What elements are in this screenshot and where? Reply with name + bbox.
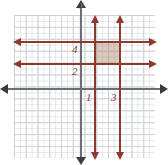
- line-y-equals-4-left-arrow-icon: [13, 38, 21, 46]
- line-y-equals-2: [20, 63, 150, 65]
- line-x-equals-1-up-arrow-icon: [91, 15, 99, 23]
- shaded-rectangle-region: [95, 42, 120, 64]
- label-line-x-equals-3: 3: [111, 92, 117, 103]
- label-line-y-equals-2: 2: [72, 66, 78, 77]
- coordinate-plane-figure: 4 2 1 3 y: [0, 0, 168, 165]
- line-y-equals-2-left-arrow-icon: [13, 60, 21, 68]
- y-axis-label: y: [80, 0, 84, 9]
- line-y-equals-2-right-arrow-icon: [149, 60, 157, 68]
- line-x-equals-3-down-arrow-icon: [116, 152, 124, 160]
- x-axis-right-arrow-icon: [160, 84, 168, 94]
- y-axis-down-arrow-icon: [76, 157, 86, 165]
- line-y-equals-4: [20, 41, 150, 43]
- x-axis: [3, 88, 165, 90]
- label-line-x-equals-1: 1: [86, 92, 92, 103]
- line-x-equals-3-up-arrow-icon: [116, 15, 124, 23]
- line-x-equals-1-down-arrow-icon: [91, 152, 99, 160]
- x-axis-left-arrow-icon: [0, 84, 8, 94]
- grid-minor-lines: [14, 15, 155, 158]
- line-x-equals-3: [119, 22, 121, 153]
- line-x-equals-1: [94, 22, 96, 153]
- label-line-y-equals-4: 4: [72, 44, 78, 55]
- line-y-equals-4-right-arrow-icon: [149, 38, 157, 46]
- y-axis: [80, 3, 82, 161]
